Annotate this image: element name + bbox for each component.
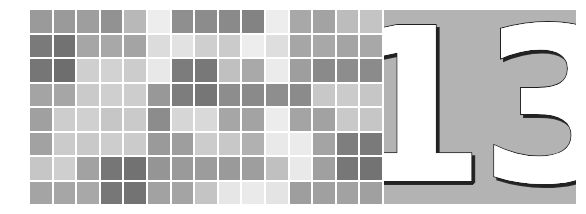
mosaic-cell bbox=[195, 35, 217, 58]
mosaic-cell bbox=[242, 133, 264, 156]
mosaic-cell bbox=[266, 133, 288, 156]
mosaic-cell bbox=[124, 157, 146, 180]
mosaic-cell bbox=[242, 182, 264, 205]
mosaic-cell bbox=[290, 35, 312, 58]
mosaic-cell bbox=[30, 84, 52, 107]
mosaic-cell bbox=[54, 59, 76, 82]
mosaic-cell bbox=[266, 157, 288, 180]
mosaic-cell bbox=[172, 182, 194, 205]
mosaic-cell bbox=[290, 10, 312, 33]
mosaic-cell bbox=[195, 182, 217, 205]
mosaic-cell bbox=[101, 35, 123, 58]
mosaic-cell bbox=[124, 182, 146, 205]
mosaic-cell bbox=[148, 133, 170, 156]
mosaic-cell bbox=[30, 10, 52, 33]
mosaic-cell bbox=[313, 59, 335, 82]
mosaic-cell bbox=[77, 133, 99, 156]
mosaic-cell bbox=[172, 59, 194, 82]
mosaic-cell bbox=[337, 133, 359, 156]
mosaic-cell bbox=[101, 157, 123, 180]
mosaic-cell bbox=[242, 84, 264, 107]
mosaic-cell bbox=[77, 157, 99, 180]
mosaic-cell bbox=[195, 133, 217, 156]
mosaic-cell bbox=[360, 59, 382, 82]
mosaic-cell bbox=[148, 10, 170, 33]
mosaic-cell bbox=[360, 108, 382, 131]
mosaic-cell bbox=[101, 84, 123, 107]
mosaic-cell bbox=[30, 182, 52, 205]
mosaic-cell bbox=[337, 157, 359, 180]
mosaic-cell bbox=[54, 108, 76, 131]
mosaic-cell bbox=[242, 108, 264, 131]
mosaic-cell bbox=[124, 84, 146, 107]
mosaic-grid bbox=[30, 10, 382, 204]
mosaic-cell bbox=[290, 59, 312, 82]
mosaic-cell bbox=[219, 157, 241, 180]
mosaic-cell bbox=[337, 35, 359, 58]
mosaic-cell bbox=[148, 182, 170, 205]
mosaic-cell bbox=[101, 59, 123, 82]
mosaic-cell bbox=[54, 10, 76, 33]
mosaic-cell bbox=[195, 10, 217, 33]
mosaic-cell bbox=[360, 10, 382, 33]
mosaic-cell bbox=[337, 182, 359, 205]
chapter-number-panel: 13 13 bbox=[384, 10, 576, 204]
mosaic-cell bbox=[266, 10, 288, 33]
mosaic-cell bbox=[313, 35, 335, 58]
mosaic-cell bbox=[124, 108, 146, 131]
mosaic-cell bbox=[313, 157, 335, 180]
mosaic-cell bbox=[266, 108, 288, 131]
mosaic-cell bbox=[219, 108, 241, 131]
mosaic-cell bbox=[172, 84, 194, 107]
mosaic-cell bbox=[313, 108, 335, 131]
mosaic-cell bbox=[101, 108, 123, 131]
mosaic-cell bbox=[195, 108, 217, 131]
mosaic-cell bbox=[219, 182, 241, 205]
mosaic-cell bbox=[313, 133, 335, 156]
mosaic-cell bbox=[242, 157, 264, 180]
mosaic-cell bbox=[360, 84, 382, 107]
mosaic-cell bbox=[195, 84, 217, 107]
mosaic-cell bbox=[219, 133, 241, 156]
mosaic-cell bbox=[172, 10, 194, 33]
mosaic-cell bbox=[360, 182, 382, 205]
mosaic-cell bbox=[124, 10, 146, 33]
mosaic-cell bbox=[337, 84, 359, 107]
mosaic-cell bbox=[77, 108, 99, 131]
chapter-opener-page: 13 13 bbox=[0, 0, 586, 214]
mosaic-cell bbox=[337, 59, 359, 82]
mosaic-cell bbox=[148, 35, 170, 58]
mosaic-cell bbox=[124, 35, 146, 58]
mosaic-cell bbox=[148, 108, 170, 131]
mosaic-cell bbox=[360, 157, 382, 180]
mosaic-cell bbox=[290, 133, 312, 156]
mosaic-cell bbox=[266, 182, 288, 205]
mosaic-cell bbox=[30, 59, 52, 82]
mosaic-cell bbox=[148, 84, 170, 107]
mosaic-cell bbox=[172, 108, 194, 131]
mosaic-cell bbox=[54, 133, 76, 156]
mosaic-cell bbox=[195, 157, 217, 180]
mosaic-cell bbox=[219, 35, 241, 58]
mosaic-cell bbox=[219, 84, 241, 107]
mosaic-cell bbox=[360, 35, 382, 58]
mosaic-cell bbox=[124, 59, 146, 82]
mosaic-cell bbox=[313, 182, 335, 205]
mosaic-cell bbox=[337, 108, 359, 131]
mosaic-cell bbox=[54, 84, 76, 107]
mosaic-cell bbox=[290, 157, 312, 180]
mosaic-cell bbox=[54, 182, 76, 205]
mosaic-cell bbox=[124, 133, 146, 156]
mosaic-cell bbox=[77, 10, 99, 33]
mosaic-cell bbox=[266, 84, 288, 107]
mosaic-cell bbox=[77, 59, 99, 82]
mosaic-cell bbox=[172, 157, 194, 180]
mosaic-cell bbox=[30, 35, 52, 58]
mosaic-cell bbox=[195, 59, 217, 82]
mosaic-cell bbox=[148, 157, 170, 180]
mosaic-cell bbox=[77, 35, 99, 58]
mosaic-cell bbox=[266, 59, 288, 82]
mosaic-cell bbox=[242, 10, 264, 33]
mosaic-cell bbox=[242, 35, 264, 58]
mosaic-cell bbox=[77, 182, 99, 205]
